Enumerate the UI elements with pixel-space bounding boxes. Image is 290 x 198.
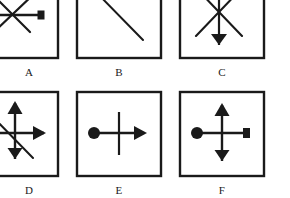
panel-f-circle-terminator-left-icon [191, 127, 203, 139]
panel-d-triangle-terminator-down-icon [8, 148, 23, 159]
panel-label-b: B [77, 66, 161, 78]
figure-panel-grid: A B C D E F [0, 0, 290, 198]
panel-label-a: A [0, 66, 58, 78]
panel-e-circle-terminator-left-icon [88, 127, 100, 139]
panel-drawings-canvas [0, 0, 290, 198]
panel-c-triangle-terminator-down-icon [211, 34, 227, 45]
panel-a-square-terminator-right-icon [38, 11, 45, 20]
panel-f [180, 92, 264, 176]
panel-d [0, 92, 58, 176]
panel-e-arrowhead-right-icon [134, 126, 147, 140]
panel-f-triangle-terminator-down-icon [215, 150, 230, 161]
panel-a-box [0, 0, 58, 58]
panel-label-e: E [77, 184, 161, 196]
panel-e [77, 92, 161, 176]
panel-b [77, 0, 161, 58]
panel-d-arrowhead-up-icon [8, 101, 23, 114]
panel-label-d: D [0, 184, 58, 196]
panel-label-f: F [180, 184, 264, 196]
panel-b-diagonal-line-down-right [94, 0, 143, 40]
panel-label-c: C [180, 66, 264, 78]
panel-b-box [77, 0, 161, 58]
panel-a [0, 0, 58, 58]
panel-f-arrowhead-up-icon [215, 103, 230, 116]
panel-d-arrowhead-right-icon [33, 126, 46, 140]
panel-c [180, 0, 264, 58]
panel-f-square-terminator-right-icon [243, 128, 250, 138]
